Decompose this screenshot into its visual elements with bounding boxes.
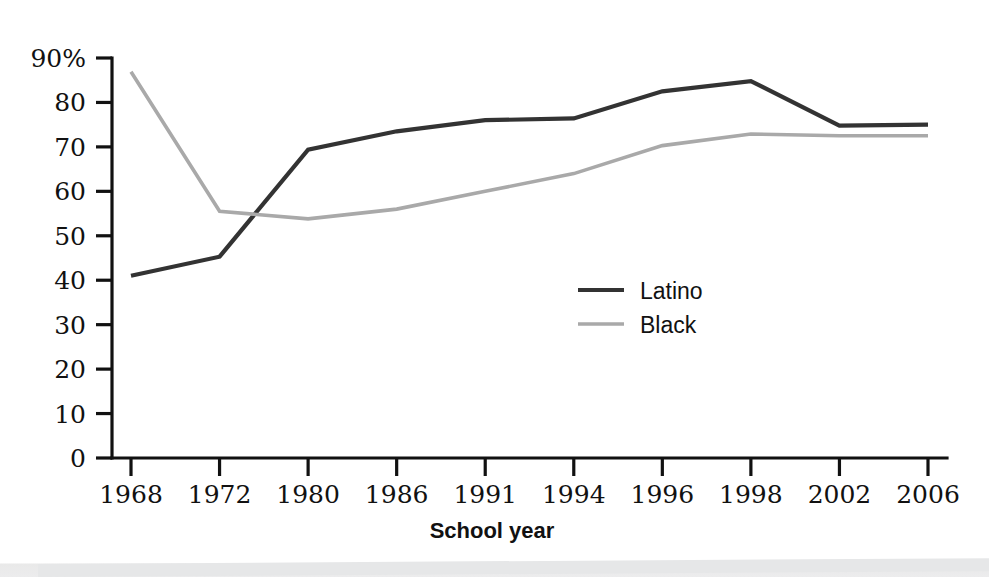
series-line-black xyxy=(131,72,928,219)
y-tick-label: 0 xyxy=(70,444,86,473)
y-tick-label: 40 xyxy=(54,266,86,295)
chart-legend: LatinoBlack xyxy=(578,278,703,338)
footer-sliver xyxy=(38,558,989,577)
x-tick-label: 1986 xyxy=(365,480,429,509)
legend-label-black: Black xyxy=(640,312,697,338)
data-series-group xyxy=(131,72,928,276)
y-tick-label: 30 xyxy=(54,311,86,340)
x-tick-label: 1980 xyxy=(276,480,340,509)
x-tick-label: 1996 xyxy=(631,480,695,509)
chart-figure: 0102030405060708090% 1968197219801986199… xyxy=(0,0,989,577)
y-tick-label: 60 xyxy=(54,177,86,206)
x-tick-label: 2002 xyxy=(808,480,872,509)
y-tick-label: 70 xyxy=(54,133,86,162)
x-tick-label: 1968 xyxy=(99,480,163,509)
x-tick-label: 1972 xyxy=(188,480,252,509)
x-tick-label: 1998 xyxy=(719,480,783,509)
y-axis-ticks: 0102030405060708090% xyxy=(30,44,112,473)
y-tick-label: 10 xyxy=(54,400,86,429)
x-tick-label: 1994 xyxy=(542,480,606,509)
x-axis-title: School year xyxy=(430,518,555,543)
x-axis-ticks: 1968197219801986199119941996199820022006 xyxy=(99,458,960,509)
y-tick-label: 50 xyxy=(54,222,86,251)
series-line-latino xyxy=(131,81,928,276)
x-tick-label: 1991 xyxy=(453,480,517,509)
legend-label-latino: Latino xyxy=(640,278,703,304)
line-chart-canvas: 0102030405060708090% 1968197219801986199… xyxy=(0,0,989,577)
footer-band xyxy=(0,555,989,577)
y-tick-label: 20 xyxy=(54,355,86,384)
x-tick-label: 2006 xyxy=(896,480,960,509)
y-tick-label: 80 xyxy=(54,88,86,117)
y-tick-label: 90% xyxy=(30,44,86,73)
